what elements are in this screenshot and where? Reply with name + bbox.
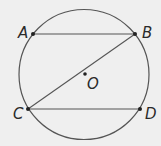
point-b [133,32,137,36]
label-b: B [142,24,152,42]
chord-bc [28,34,135,109]
point-d [138,107,142,111]
label-d: D [145,105,157,123]
circle-geometry-diagram: A B C D O [0,0,161,146]
point-c [26,107,30,111]
label-a: A [17,24,28,42]
label-o: O [87,75,99,93]
point-a [31,32,35,36]
label-c: C [13,105,24,123]
